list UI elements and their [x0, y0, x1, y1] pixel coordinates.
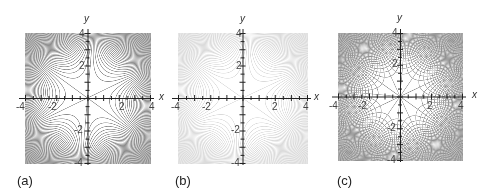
y-tick: 4 [236, 28, 242, 39]
x-axis-label: x [159, 91, 164, 102]
panel-caption: (c) [337, 173, 352, 188]
contour-plot-b [165, 0, 325, 195]
y-tick: -4 [231, 157, 240, 168]
y-tick: 2 [236, 60, 242, 71]
x-tick: -4 [16, 101, 25, 112]
y-tick: 4 [79, 28, 85, 39]
x-tick: -4 [329, 100, 338, 111]
panel-caption: (b) [175, 173, 191, 188]
x-tick: -4 [171, 101, 180, 112]
x-tick: 2 [119, 101, 125, 112]
y-tick: 2 [79, 60, 85, 71]
contour-plot-c [325, 0, 494, 195]
x-tick: 2 [272, 101, 278, 112]
y-axis-label: y [84, 13, 89, 24]
y-tick: -2 [231, 124, 240, 135]
y-tick: -2 [387, 122, 396, 133]
x-axis-label: x [472, 89, 477, 100]
y-axis-label: y [240, 13, 245, 24]
y-tick: 2 [392, 58, 398, 69]
panel-b: y x -4 -2 2 4 4 2 -2 -4 (b) [165, 0, 325, 195]
y-tick: -4 [74, 157, 83, 168]
y-tick: -4 [387, 154, 396, 165]
panel-a: y x -4 -2 2 4 4 2 -2 -4 (a) [0, 0, 165, 195]
y-axis-label: y [397, 12, 402, 23]
x-tick: 2 [427, 100, 433, 111]
panel-c: y x -4 -2 2 4 4 2 -2 -4 (c) [325, 0, 494, 195]
x-axis-label: x [314, 91, 319, 102]
x-tick: 4 [458, 100, 464, 111]
x-tick: -2 [48, 101, 57, 112]
x-tick: 4 [303, 101, 309, 112]
x-tick: -2 [202, 101, 211, 112]
panel-caption: (a) [17, 173, 33, 188]
x-tick: 4 [149, 101, 155, 112]
y-tick: -2 [74, 124, 83, 135]
x-tick: -2 [358, 100, 367, 111]
y-tick: 4 [392, 27, 398, 38]
